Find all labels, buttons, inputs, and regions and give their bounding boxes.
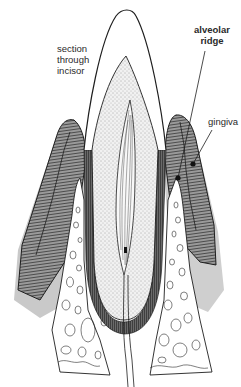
pulp-marker	[124, 247, 127, 253]
gingiva-pointer-dot	[190, 161, 195, 166]
incisor-section-diagram	[0, 0, 241, 387]
label-gingiva: gingiva	[208, 116, 238, 127]
label-section-through-incisor: section through incisor	[57, 43, 89, 76]
label-alveolar-ridge: alveolar ridge	[186, 24, 238, 46]
alveolar-ridge-pointer-dot	[175, 175, 180, 180]
